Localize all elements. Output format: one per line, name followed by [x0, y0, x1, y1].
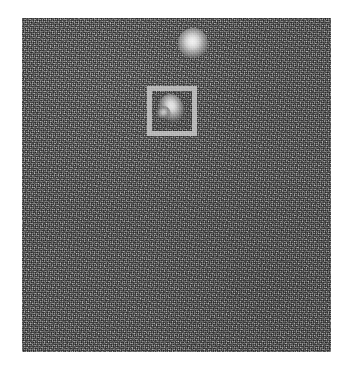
- bounding-box-annotation[interactable]: [147, 86, 197, 136]
- noisy-grayscale-image[interactable]: [22, 18, 331, 352]
- film-grain-overlay: [22, 18, 331, 352]
- bounding-box-interior: [152, 91, 192, 131]
- noise-texture-layer-4: [22, 18, 331, 352]
- figure-viewport: [0, 0, 353, 374]
- blob-core: [178, 28, 208, 58]
- illumination-shading: [22, 18, 331, 352]
- bright-blob-unannotated[interactable]: [178, 28, 208, 58]
- noise-texture-layer-3: [22, 18, 331, 352]
- noise-texture-layer-2: [22, 18, 331, 352]
- noise-texture-layer-1: [22, 18, 331, 352]
